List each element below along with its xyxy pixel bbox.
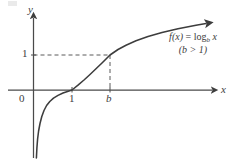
y-tick-label-1: 1 bbox=[22, 48, 28, 59]
function-annotation: f(x) = logb x (b > 1) bbox=[152, 31, 234, 56]
function-prefix: f(x) bbox=[169, 31, 183, 42]
log-argument: x bbox=[210, 31, 217, 42]
origin-label: 0 bbox=[19, 93, 25, 104]
log-operator: log bbox=[194, 31, 207, 42]
x-tick-label-1: 1 bbox=[69, 93, 75, 104]
y-axis-label: y bbox=[28, 4, 33, 15]
base-condition-line: (b > 1) bbox=[152, 44, 234, 56]
x-tick-label-b: b bbox=[106, 93, 112, 104]
plot-canvas bbox=[0, 0, 235, 167]
equals-sign: = bbox=[183, 31, 194, 42]
function-equation-line: f(x) = logb x bbox=[152, 31, 234, 44]
x-axis-label: x bbox=[221, 84, 226, 95]
logarithm-graph-figure: y x 0 1 b 1 f(x) = logb x (b > 1) bbox=[0, 0, 235, 167]
